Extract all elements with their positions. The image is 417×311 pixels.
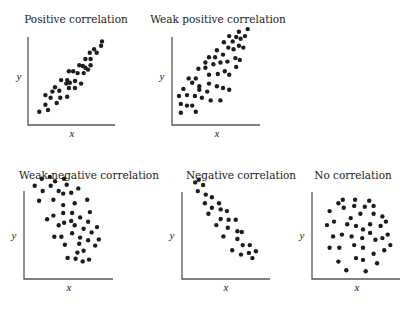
- data-point: [88, 51, 92, 55]
- axes: [182, 192, 270, 279]
- data-point: [85, 198, 89, 202]
- data-point: [214, 223, 218, 227]
- data-point: [73, 201, 77, 205]
- data-point: [361, 258, 365, 262]
- x-axis-label: x: [214, 127, 220, 139]
- data-point: [219, 207, 223, 211]
- data-point: [177, 94, 181, 98]
- data-point: [93, 243, 97, 247]
- x-axis-label: x: [354, 281, 360, 293]
- data-point: [215, 84, 219, 88]
- data-point: [62, 221, 66, 225]
- data-point: [234, 35, 238, 39]
- data-point: [354, 224, 358, 228]
- data-point: [203, 201, 207, 205]
- data-point: [354, 256, 358, 260]
- data-point: [51, 213, 55, 217]
- data-point: [185, 93, 189, 97]
- data-point: [87, 257, 91, 261]
- data-point: [210, 195, 214, 199]
- data-point: [371, 252, 375, 256]
- data-point: [70, 211, 74, 215]
- data-point: [75, 250, 79, 254]
- data-point: [81, 249, 85, 253]
- data-point: [190, 81, 194, 85]
- data-point: [65, 256, 69, 260]
- data-point: [76, 186, 80, 190]
- data-point: [222, 40, 226, 44]
- data-point: [227, 88, 231, 92]
- panel-title: No correlation: [314, 169, 392, 181]
- data-point: [52, 235, 56, 239]
- data-point: [37, 199, 41, 203]
- data-point: [58, 96, 62, 100]
- panel-no-correlation: No correlation y x: [299, 169, 400, 293]
- data-point: [221, 52, 225, 56]
- data-point: [65, 78, 69, 82]
- data-point: [221, 86, 225, 90]
- data-point: [200, 96, 204, 100]
- data-point: [386, 232, 390, 236]
- data-point: [197, 84, 201, 88]
- data-point: [378, 224, 382, 228]
- data-point: [238, 37, 242, 41]
- data-point: [352, 243, 356, 247]
- data-point: [375, 261, 379, 265]
- data-point: [59, 235, 63, 239]
- points: [325, 198, 393, 274]
- data-point: [225, 59, 229, 63]
- data-point: [238, 58, 242, 62]
- data-point: [221, 234, 225, 238]
- data-point: [207, 73, 211, 77]
- data-point: [218, 60, 222, 64]
- data-point: [237, 30, 241, 34]
- data-point: [207, 55, 211, 59]
- data-point: [336, 259, 340, 263]
- data-point: [89, 230, 93, 234]
- data-point: [75, 71, 79, 75]
- data-point: [59, 78, 63, 82]
- data-point: [201, 183, 205, 187]
- data-point: [247, 251, 251, 255]
- data-point: [65, 183, 69, 187]
- data-point: [230, 248, 234, 252]
- data-point: [46, 108, 50, 112]
- data-point: [67, 69, 71, 73]
- data-point: [361, 227, 365, 231]
- data-point: [185, 103, 189, 107]
- axes: [24, 191, 113, 279]
- data-point: [325, 223, 329, 227]
- x-axis-label: x: [66, 281, 72, 293]
- data-point: [203, 60, 207, 64]
- data-point: [62, 177, 66, 181]
- data-point: [37, 110, 41, 114]
- data-point: [197, 178, 201, 182]
- data-point: [194, 110, 198, 114]
- y-axis-label: y: [11, 229, 17, 241]
- data-point: [341, 198, 345, 202]
- data-point: [336, 201, 340, 205]
- data-point: [61, 191, 65, 195]
- data-point: [43, 93, 47, 97]
- data-point: [234, 65, 238, 69]
- data-point: [88, 63, 92, 67]
- data-point: [86, 220, 90, 224]
- data-point: [254, 249, 258, 253]
- data-point: [368, 231, 372, 235]
- data-point: [81, 227, 85, 231]
- data-point: [345, 222, 349, 226]
- data-point: [358, 212, 362, 216]
- data-point: [240, 230, 244, 234]
- correlation-figure: Positive correlation y x Weak positive c…: [0, 0, 417, 311]
- panel-negative-correlation: Negative correlation y x: [169, 169, 297, 293]
- data-point: [352, 204, 356, 208]
- data-point: [241, 45, 245, 49]
- data-point: [207, 81, 211, 85]
- data-point: [210, 206, 214, 210]
- data-point: [45, 217, 49, 221]
- data-point: [190, 103, 194, 107]
- data-point: [78, 235, 82, 239]
- data-point: [384, 219, 388, 223]
- data-point: [223, 69, 227, 73]
- data-point: [226, 218, 230, 222]
